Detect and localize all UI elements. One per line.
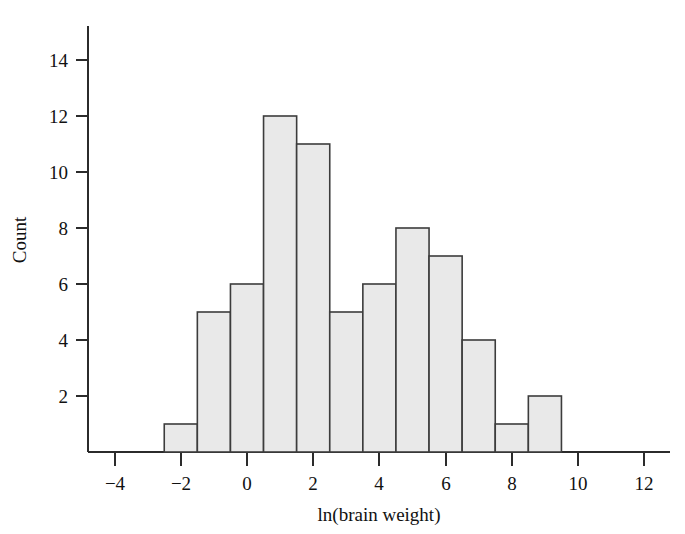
- x-tick-label-0: 0: [242, 473, 252, 494]
- x-tick-label-2: 2: [308, 473, 318, 494]
- y-tick-label-8: 8: [59, 218, 69, 239]
- histogram-bar: [528, 396, 561, 452]
- y-tick-label-12: 12: [49, 106, 68, 127]
- x-axis-tick-labels: −4 −2 0 2 4 6 8 10 12: [105, 473, 654, 494]
- histogram-bar: [264, 116, 297, 452]
- histogram-bars: [164, 116, 561, 452]
- x-axis: −4 −2 0 2 4 6 8 10 12 ln(brain weight): [88, 452, 670, 526]
- y-axis: 2 4 6 8 10 12 14 Count: [9, 26, 88, 452]
- histogram-bar: [230, 284, 263, 452]
- x-axis-ticks: [115, 452, 644, 466]
- histogram-bar: [297, 144, 330, 452]
- histogram-bar: [462, 340, 495, 452]
- x-tick-label-8: 8: [507, 473, 517, 494]
- x-tick-label-12: 12: [635, 473, 654, 494]
- histogram-plot: 2 4 6 8 10 12 14 Count: [0, 0, 685, 534]
- x-tick-label-minus2: −2: [171, 473, 191, 494]
- histogram-figure: 2 4 6 8 10 12 14 Count: [0, 0, 685, 534]
- histogram-bar: [164, 424, 197, 452]
- y-tick-label-4: 4: [59, 330, 69, 351]
- histogram-bar: [330, 312, 363, 452]
- histogram-bar: [495, 424, 528, 452]
- x-axis-title: ln(brain weight): [318, 504, 441, 526]
- x-tick-label-10: 10: [569, 473, 588, 494]
- histogram-bar: [396, 228, 429, 452]
- x-tick-label-4: 4: [374, 473, 384, 494]
- x-tick-label-minus4: −4: [105, 473, 126, 494]
- y-tick-label-6: 6: [59, 274, 69, 295]
- y-tick-label-14: 14: [49, 50, 69, 71]
- y-tick-label-10: 10: [49, 162, 68, 183]
- histogram-bar: [429, 256, 462, 452]
- histogram-bar: [197, 312, 230, 452]
- y-axis-ticks: [76, 60, 88, 396]
- y-tick-label-2: 2: [59, 386, 69, 407]
- x-tick-label-6: 6: [441, 473, 451, 494]
- histogram-bar: [363, 284, 396, 452]
- y-axis-title: Count: [9, 216, 30, 263]
- y-axis-tick-labels: 2 4 6 8 10 12 14: [49, 50, 69, 407]
